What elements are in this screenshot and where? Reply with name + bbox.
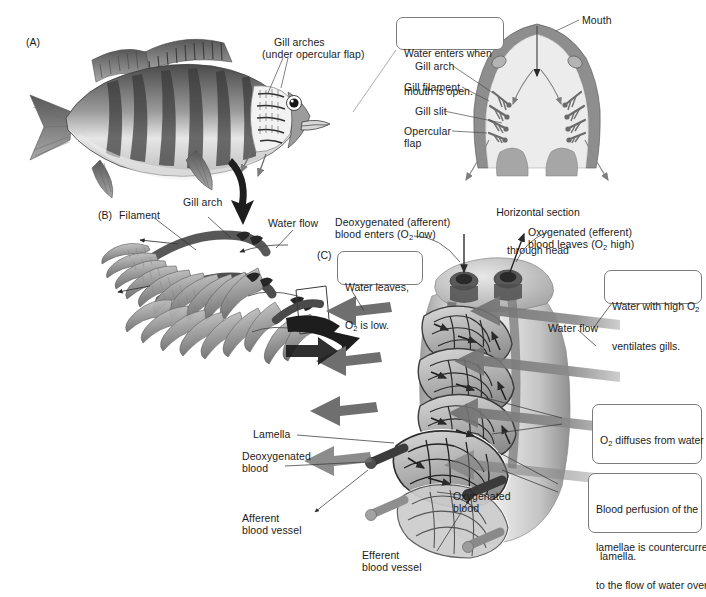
label-afferent-blood-vessel-line2: blood vessel (242, 524, 302, 536)
label-water-flow-b: Water flow (268, 217, 318, 229)
figure-canvas: (A) (B) (C) Gill arches (under opercular… (0, 0, 706, 597)
label-lamella: Lamella (253, 428, 290, 440)
label-efferent-blood-vessel-line1: Efferent (362, 549, 399, 561)
panel-b-id: (B) (98, 209, 112, 221)
callout-countercurrent-line1: Blood perfusion of the (596, 503, 695, 516)
panel-c-id: (C) (317, 249, 332, 261)
label-oxygenated-efferent-line1: Oxygenated (efferent) (528, 226, 632, 238)
panel-a-id: (A) (26, 36, 40, 48)
label-mouth: Mouth (582, 14, 612, 26)
label-afferent-blood-vessel-line1: Afferent (242, 512, 279, 524)
callout-water-leaves: Water leaves, O2 is low. (337, 251, 423, 285)
label-opercular-flap-line2: flap (404, 137, 421, 149)
label-deoxygenated-afferent-line2: blood enters (O2 low) (335, 228, 436, 242)
label-oxygenated-blood-line1: Oxygenated (453, 490, 511, 502)
label-deoxygenated-blood-line2: blood (242, 462, 268, 474)
label-oxygenated-blood-line2: blood (453, 502, 479, 514)
label-oxygenated-efferent-line2: blood leaves (O2 high) (528, 238, 634, 252)
callout-water-enters-line1: Water enters when (404, 47, 497, 60)
label-water-flow-c: Water flow (548, 322, 598, 334)
label-gill-arch-b: Gill arch (183, 196, 222, 208)
label-filament-b: Filament (119, 209, 160, 221)
panel-a-fish-illustration (30, 39, 330, 198)
callout-water-leaves-line2: O2 is low. (345, 319, 416, 334)
callout-water-high-o2-line2: ventilates gills. (612, 340, 695, 353)
label-gill-arch-head: Gill arch (415, 60, 454, 72)
callout-o2-diffusion-line1: O2 diffuses from water (600, 434, 695, 449)
label-gill-filament-head: Gill filament (404, 81, 460, 93)
head-section-caption-line1: Horizontal section (470, 206, 606, 219)
callout-countercurrent: Blood perfusion of the lamellae is count… (588, 473, 702, 533)
label-gill-arches-line2: (under opercular flap) (262, 48, 365, 60)
callout-water-high-o2-line1: Water with high O2 (612, 300, 695, 315)
label-deoxygenated-blood-line1: Deoxygenated (242, 450, 311, 462)
callout-countercurrent-line2: lamellae is countercurrent (596, 541, 695, 554)
label-efferent-blood-vessel-line2: blood vessel (362, 561, 422, 573)
label-gill-slit-head: Gill slit (415, 105, 447, 117)
panel-b-illustration (102, 217, 330, 364)
callout-water-high-o2: Water with high O2 ventilates gills. (604, 270, 702, 304)
callout-countercurrent-line3: to the flow of water over (596, 579, 695, 592)
callout-water-enters: Water enters when mouth is open. (396, 17, 504, 50)
callout-water-leaves-line1: Water leaves, (345, 281, 416, 294)
label-gill-arches-line1: Gill arches (274, 36, 325, 48)
label-opercular-flap-line1: Opercular (404, 125, 451, 137)
callout-o2-diffusion: O2 diffuses from water into the blood ov… (592, 404, 702, 464)
label-deoxygenated-afferent-line1: Deoxygenated (afferent) (335, 216, 450, 228)
